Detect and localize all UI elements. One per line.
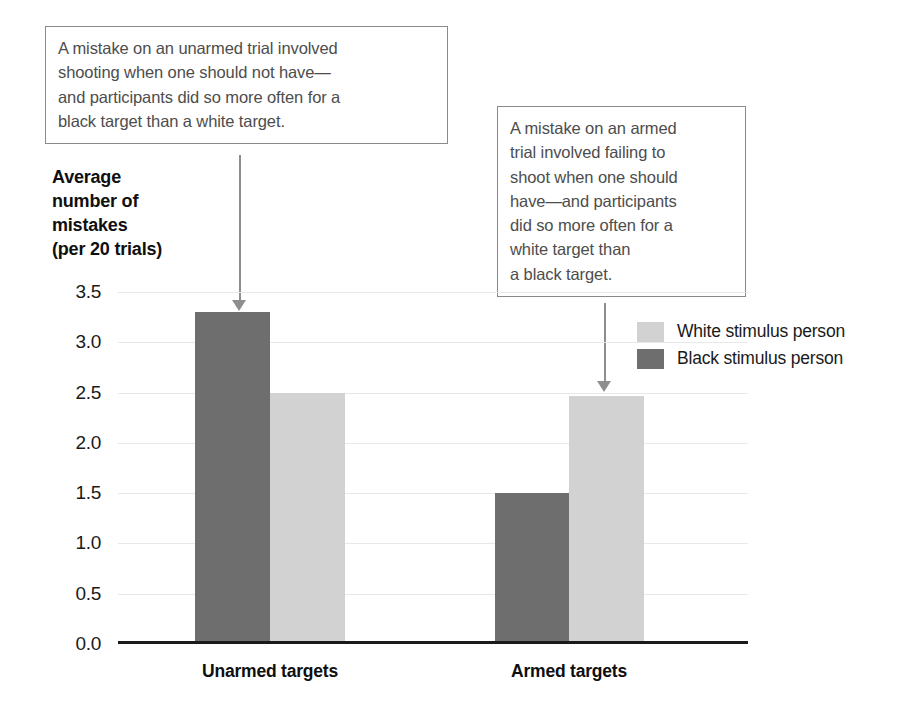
y-tick-label: 3.0	[75, 331, 101, 353]
legend-item-white[interactable]: White stimulus person	[637, 318, 845, 345]
x-tick-label-unarmed: Unarmed targets	[202, 661, 338, 682]
legend-item-black[interactable]: Black stimulus person	[637, 345, 845, 372]
y-tick-label: 2.5	[75, 382, 101, 404]
bar-armed-black[interactable]	[495, 493, 569, 644]
y-tick-label: 0.0	[75, 633, 101, 655]
annotation-callout-unarmed: A mistake on an unarmed trial involved s…	[45, 26, 448, 144]
annotation-callout-armed: A mistake on an armed trial involved fai…	[497, 106, 746, 297]
x-axis-line	[118, 641, 748, 645]
x-tick-label-armed: Armed targets	[511, 661, 627, 682]
y-tick-label: 2.0	[75, 432, 101, 454]
legend: White stimulus person Black stimulus per…	[637, 318, 845, 372]
y-tick-label: 1.0	[75, 532, 101, 554]
annotation-arrow-line-unarmed	[239, 155, 241, 300]
bar-armed-white[interactable]	[569, 396, 644, 644]
legend-swatch-icon-white	[637, 322, 664, 342]
gridline-3-5: 3.5	[118, 292, 748, 293]
bar-unarmed-black[interactable]	[195, 312, 270, 644]
y-tick-label: 3.5	[75, 281, 101, 303]
y-tick-label: 1.5	[75, 482, 101, 504]
y-tick-label: 0.5	[75, 583, 101, 605]
legend-label: Black stimulus person	[677, 348, 843, 369]
y-axis-title: Average number of mistakes (per 20 trial…	[52, 166, 162, 262]
gridline-0-0: 0.0	[118, 644, 748, 645]
legend-swatch-icon-black	[637, 349, 664, 369]
chart-canvas: A mistake on an unarmed trial involved s…	[0, 0, 924, 710]
legend-label: White stimulus person	[677, 321, 845, 342]
bar-unarmed-white[interactable]	[270, 393, 345, 644]
